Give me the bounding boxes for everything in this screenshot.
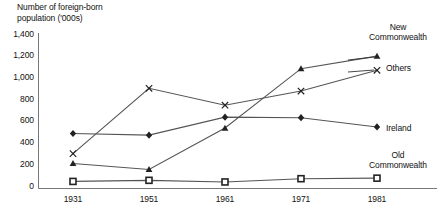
line-chart: Number of foreign-born population ('000s… <box>0 0 443 216</box>
series-others <box>70 67 380 157</box>
series-new-commonwealth <box>70 53 381 172</box>
series-label-new-commonwealth: New Commonwealth <box>350 22 443 42</box>
series-label-ireland: Ireland <box>386 123 411 133</box>
series-old-commonwealth <box>70 175 380 185</box>
series-label-others: Others <box>386 63 411 73</box>
series-label-old-commonwealth: Old Commonwealth <box>350 150 443 170</box>
